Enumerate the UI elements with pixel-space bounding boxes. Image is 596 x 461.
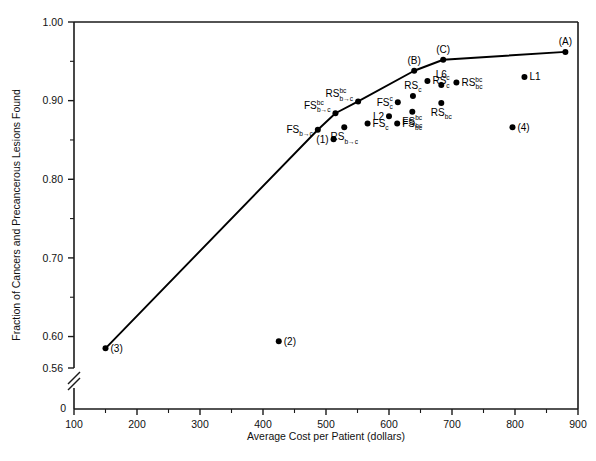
data-point bbox=[395, 99, 401, 105]
data-point bbox=[332, 110, 338, 116]
y-axis-origin-label: 0 bbox=[60, 402, 66, 414]
data-point bbox=[103, 345, 109, 351]
data-point bbox=[509, 124, 515, 130]
data-point bbox=[341, 124, 347, 130]
data-point-label: FScc bbox=[377, 95, 394, 109]
x-tick-label: 400 bbox=[254, 418, 272, 430]
data-point-label: L2 bbox=[373, 111, 385, 122]
data-point-label: (C) bbox=[436, 44, 450, 55]
y-tick-label: 1.00 bbox=[43, 16, 64, 28]
y-tick-label: 0.90 bbox=[43, 94, 64, 106]
x-tick-label: 300 bbox=[191, 418, 209, 430]
data-point-label: RSb→c bbox=[331, 131, 359, 144]
data-point bbox=[453, 80, 459, 86]
data-point bbox=[386, 113, 392, 119]
y-tick-label: 0.60 bbox=[43, 330, 64, 342]
data-point-label: RSbcbc bbox=[461, 76, 483, 90]
y-tick-label: 0.80 bbox=[43, 173, 64, 185]
y-tick-label: 0.70 bbox=[43, 252, 64, 264]
data-point-label: FSb→c bbox=[286, 124, 313, 137]
data-point-label: (1) bbox=[316, 134, 328, 145]
x-tick-label: 100 bbox=[65, 418, 83, 430]
x-tick-label: 900 bbox=[569, 418, 587, 430]
data-point-labels-group: (3)FSb→cFSbcb→cRSbcb→c(B)(C)(A)(1)RSb→cF… bbox=[111, 36, 573, 354]
data-point bbox=[410, 93, 416, 99]
chart-figure: 100200300400500600700800900 1.000.900.80… bbox=[0, 0, 596, 461]
data-point-label: L1 bbox=[529, 71, 541, 82]
data-point bbox=[562, 49, 568, 55]
x-axis-ticks bbox=[74, 409, 578, 415]
x-axis-title: Average Cost per Patient (dollars) bbox=[247, 430, 405, 442]
data-point bbox=[411, 68, 417, 74]
data-point-label: FSbcb→c bbox=[304, 99, 331, 113]
data-point-label: (3) bbox=[111, 343, 123, 354]
axes-group bbox=[68, 22, 578, 409]
data-point-label: (2) bbox=[284, 336, 296, 347]
data-point-label: L6 bbox=[436, 69, 448, 80]
x-tick-label: 800 bbox=[506, 418, 524, 430]
data-point bbox=[394, 120, 400, 126]
y-axis-ticks bbox=[68, 22, 74, 368]
data-point bbox=[438, 100, 444, 106]
data-point bbox=[521, 74, 527, 80]
data-point-label: RSc bbox=[404, 80, 422, 93]
data-point-label: (4) bbox=[517, 122, 529, 133]
data-point-label: RSbcb→c bbox=[325, 87, 353, 101]
x-tick-label: 200 bbox=[128, 418, 146, 430]
data-point bbox=[315, 127, 321, 133]
data-point-label: (B) bbox=[408, 55, 421, 66]
data-point bbox=[365, 120, 371, 126]
data-point bbox=[276, 338, 282, 344]
scatter-plot-svg: 100200300400500600700800900 1.000.900.80… bbox=[0, 0, 596, 461]
data-point bbox=[440, 57, 446, 63]
y-axis-tick-labels: 1.000.900.800.700.600.56 bbox=[43, 16, 64, 374]
data-point-label: (A) bbox=[559, 36, 572, 47]
x-tick-label: 600 bbox=[380, 418, 398, 430]
y-axis-title: Fraction of Cancers and Precancerous Les… bbox=[10, 89, 22, 341]
y-axis-break-icon bbox=[68, 372, 80, 390]
x-tick-label: 700 bbox=[443, 418, 461, 430]
x-tick-label: 500 bbox=[317, 418, 335, 430]
y-tick-label: 0.56 bbox=[43, 362, 64, 374]
x-axis-tick-labels: 100200300400500600700800900 bbox=[65, 418, 587, 430]
data-point-label: RSbc bbox=[431, 107, 453, 120]
data-point bbox=[424, 78, 430, 84]
data-point bbox=[355, 98, 361, 104]
